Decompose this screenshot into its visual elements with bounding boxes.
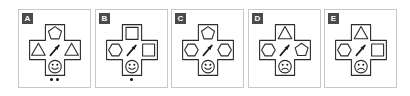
cross-diagram	[104, 23, 160, 77]
marker-dot	[130, 78, 133, 81]
cross-diagram	[333, 23, 389, 77]
cross-diagram-container	[96, 24, 167, 76]
marker-dot	[50, 78, 53, 81]
cross-diagram	[257, 23, 313, 77]
hexagon-shape	[337, 44, 351, 56]
cross-arm-right	[142, 44, 154, 56]
face-eye-left	[204, 64, 206, 66]
square-shape	[126, 27, 138, 39]
option-panel-e[interactable]: E	[324, 9, 397, 88]
marker-dot	[56, 78, 59, 81]
face-eye-left	[357, 64, 359, 66]
hexagon-shape	[108, 44, 122, 56]
cross-diagram-container	[172, 24, 243, 76]
square-shape	[142, 44, 154, 56]
face-eye-left	[51, 64, 53, 66]
sad-face-outline	[278, 60, 291, 73]
cross-diagram-container	[19, 24, 90, 76]
face-eye-right	[133, 64, 135, 66]
cross-arm-bottom	[125, 60, 138, 73]
cross-arm-left	[108, 44, 122, 56]
cross-diagram-container	[249, 24, 320, 76]
marker-dots	[249, 76, 320, 82]
marker-dots	[96, 76, 167, 82]
cross-arm-bottom	[354, 60, 367, 73]
hexagon-shape	[261, 44, 275, 56]
cross-arm-right	[217, 44, 231, 56]
hexagon-shape	[217, 44, 231, 56]
cross-arm-right	[371, 44, 383, 56]
happy-face-outline	[48, 60, 61, 73]
cross-arm-bottom	[48, 60, 61, 73]
cross-arm-top	[126, 27, 138, 39]
face-eye-left	[128, 64, 130, 66]
cross-arm-bottom	[201, 60, 214, 73]
cross-diagram	[27, 23, 83, 77]
face-eye-right	[209, 64, 211, 66]
marker-dots	[325, 76, 396, 82]
answer-options-figure: ABCDE	[0, 0, 410, 96]
face-eye-right	[286, 64, 288, 66]
marker-dots	[172, 76, 243, 82]
face-eye-right	[56, 64, 58, 66]
happy-face-outline	[125, 60, 138, 73]
cross-arm-left	[184, 44, 198, 56]
face-eye-right	[362, 64, 364, 66]
option-panel-c[interactable]: C	[171, 9, 244, 88]
option-panel-d[interactable]: D	[248, 9, 321, 88]
face-eye-left	[281, 64, 283, 66]
square-shape	[371, 44, 383, 56]
sad-face-outline	[354, 60, 367, 73]
cross-arm-bottom	[278, 60, 291, 73]
cross-diagram-container	[325, 24, 396, 76]
option-panel-a[interactable]: A	[18, 9, 91, 88]
cross-arm-left	[337, 44, 351, 56]
option-panel-b[interactable]: B	[95, 9, 168, 88]
marker-dots	[19, 76, 90, 82]
happy-face-outline	[201, 60, 214, 73]
hexagon-shape	[184, 44, 198, 56]
cross-arm-left	[261, 44, 275, 56]
cross-diagram	[180, 23, 236, 77]
